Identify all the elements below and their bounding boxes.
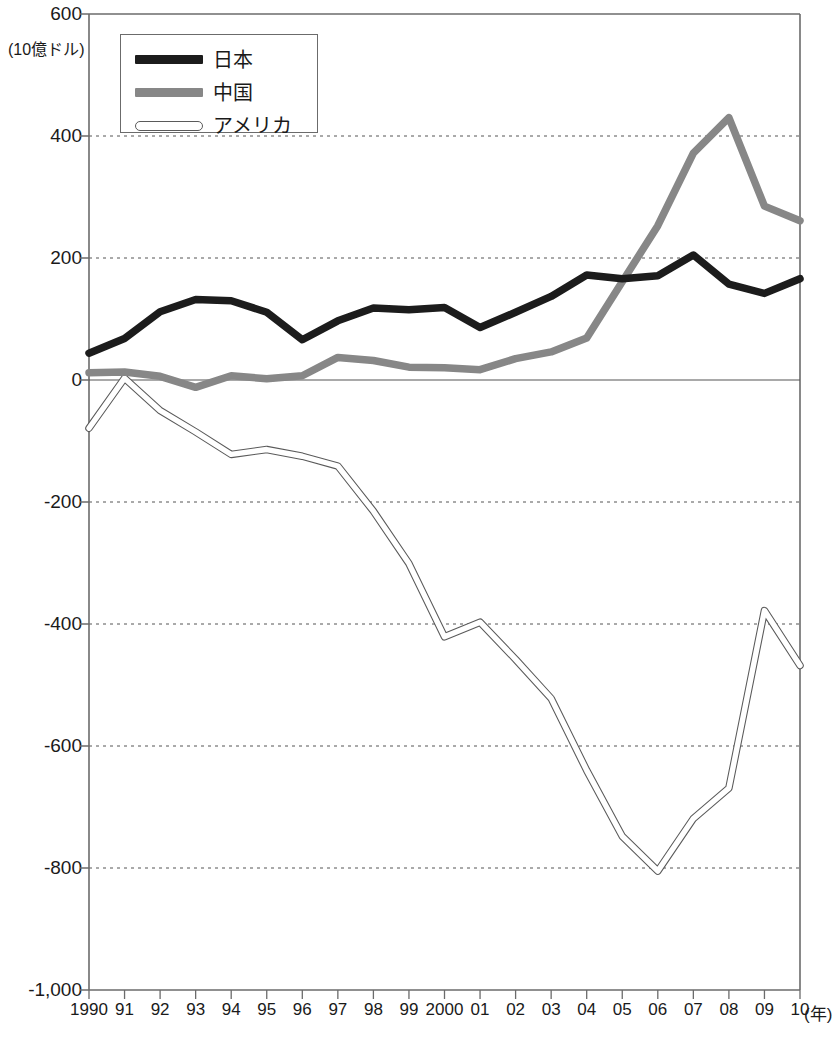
legend-swatch-japan-icon: [135, 55, 203, 64]
x-axis-unit-label: (年): [804, 1000, 832, 1025]
legend-item-usa: アメリカ: [121, 109, 319, 142]
x-tick-label: 01: [471, 1000, 490, 1020]
series-line-japan: [89, 255, 800, 353]
legend-label-japan: 日本: [213, 50, 253, 70]
x-tick-label: 03: [542, 1000, 561, 1020]
series-line-usa-outline: [89, 378, 800, 871]
x-tick-label: 92: [151, 1000, 170, 1020]
chart-legend: 日本 中国 アメリカ: [120, 34, 318, 133]
x-tick-label: 05: [613, 1000, 632, 1020]
legend-label-china: 中国: [213, 83, 253, 103]
x-tick-label: 07: [684, 1000, 703, 1020]
x-tick-label: 2000: [426, 1000, 464, 1020]
x-tick-label: 99: [399, 1000, 418, 1020]
x-tick-label: 08: [719, 1000, 738, 1020]
legend-swatch-usa-icon: [135, 121, 203, 131]
legend-item-japan: 日本: [121, 43, 319, 76]
x-tick-label: 04: [577, 1000, 596, 1020]
x-axis-ticks: [89, 990, 800, 999]
x-tick-label: 06: [648, 1000, 667, 1020]
legend-item-china: 中国: [121, 76, 319, 109]
chart-container: (10億ドル) 600 400 200 0 -200 -400 -600 -80…: [0, 0, 838, 1045]
x-tick-label: 93: [186, 1000, 205, 1020]
x-tick-label: 1990: [70, 1000, 108, 1020]
series-line-usa-fill: [89, 378, 800, 871]
x-tick-label: 09: [755, 1000, 774, 1020]
x-tick-label: 91: [115, 1000, 134, 1020]
legend-label-usa: アメリカ: [213, 116, 292, 136]
data-series-layer: [89, 118, 800, 871]
chart-plot-area: [0, 0, 838, 1045]
x-tick-label: 97: [328, 1000, 347, 1020]
x-tick-label: 94: [222, 1000, 241, 1020]
x-tick-label: 96: [293, 1000, 312, 1020]
x-tick-label: 95: [257, 1000, 276, 1020]
x-tick-label: 02: [506, 1000, 525, 1020]
gridlines: [89, 136, 800, 868]
legend-swatch-china-icon: [135, 88, 203, 97]
x-tick-label: 98: [364, 1000, 383, 1020]
